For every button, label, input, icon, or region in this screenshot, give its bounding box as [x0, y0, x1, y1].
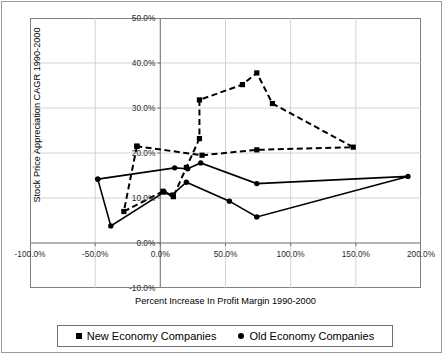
data-point-marker [121, 209, 126, 214]
y-tick-label: 20.0% [120, 148, 155, 158]
data-point-marker [254, 214, 259, 219]
legend-label-new-economy: New Economy Companies [87, 330, 217, 342]
x-axis-title: Percent Increase In Profit Margin 1990-2… [30, 296, 421, 306]
data-point-marker [270, 101, 275, 106]
square-marker-icon [76, 333, 82, 339]
data-point-marker [172, 165, 177, 170]
data-point-marker [254, 147, 259, 152]
data-point-marker [197, 97, 202, 102]
circle-marker-icon [238, 333, 244, 339]
x-tick-label: 100.0% [277, 249, 305, 259]
series-line-0 [124, 73, 353, 212]
x-tick-label: 50.0% [214, 249, 238, 259]
legend-label-old-economy: Old Economy Companies [249, 330, 374, 342]
data-point-marker [254, 70, 259, 75]
chart-legend: New Economy Companies Old Economy Compan… [57, 325, 393, 347]
data-point-marker [162, 189, 167, 194]
data-point-marker [351, 145, 356, 150]
data-point-marker [227, 198, 232, 203]
data-point-marker [405, 174, 410, 179]
data-point-marker [240, 82, 245, 87]
data-point-marker [254, 181, 259, 186]
y-tick-label: 30.0% [120, 103, 155, 113]
y-tick-label: 50.0% [120, 13, 155, 23]
data-point-marker [185, 166, 190, 171]
legend-entry-old-economy: Old Economy Companies [238, 330, 374, 342]
data-point-marker [197, 136, 202, 141]
y-axis-title: Stock Price Appreciation CAGR 1990-2000 [32, 0, 42, 230]
chart-container: -10.0%0.0%10.0%20.0%30.0%40.0%50.0% -100… [0, 0, 444, 355]
x-tick-label: -100.0% [15, 249, 46, 259]
data-point-marker [95, 176, 100, 181]
y-tick-label: 40.0% [120, 58, 155, 68]
y-tick-label: -10.0% [120, 283, 155, 293]
x-tick-label: 200.0% [407, 249, 435, 259]
x-tick-label: -50.0% [82, 249, 108, 259]
x-tick-label: 0.0% [151, 249, 170, 259]
data-point-marker [184, 180, 189, 185]
y-tick-label: 0.0% [120, 238, 155, 248]
y-tick-label: 10.0% [120, 193, 155, 203]
data-point-marker [169, 192, 174, 197]
legend-entry-new-economy: New Economy Companies [76, 330, 217, 342]
data-point-marker [108, 223, 113, 228]
plot-canvas [30, 18, 421, 288]
data-point-marker [198, 160, 203, 165]
x-tick-label: 150.0% [342, 249, 370, 259]
data-point-marker [199, 153, 204, 158]
